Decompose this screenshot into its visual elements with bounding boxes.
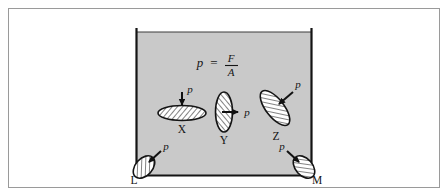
element-x-label: X xyxy=(178,123,187,135)
element-y-label: Y xyxy=(220,134,229,146)
element-l-label: L xyxy=(130,174,137,186)
element-y-arrow-label: p xyxy=(243,106,250,118)
pressure-diagram-svg: p = F A X p Y p Z p L p M p xyxy=(0,0,448,196)
element-m-arrow-label: p xyxy=(278,140,285,152)
element-z-arrow-label: p xyxy=(294,78,301,90)
figure-root: p = F A X p Y p Z p L p M p xyxy=(0,0,448,196)
formula-denominator: A xyxy=(227,66,235,78)
element-x-arrow-label: p xyxy=(186,83,193,95)
formula-p: p xyxy=(196,55,204,70)
formula-equals: = xyxy=(210,55,217,70)
element-m-label: M xyxy=(312,174,322,186)
formula-numerator: F xyxy=(227,52,235,64)
element-x-disc xyxy=(158,106,206,121)
element-l-arrow-label: p xyxy=(162,140,169,152)
